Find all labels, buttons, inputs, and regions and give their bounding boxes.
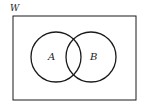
universe-label: W <box>10 3 20 13</box>
set-a-label: A <box>47 51 55 62</box>
set-b-label: B <box>89 51 97 62</box>
venn-diagram: W A B <box>0 0 144 104</box>
